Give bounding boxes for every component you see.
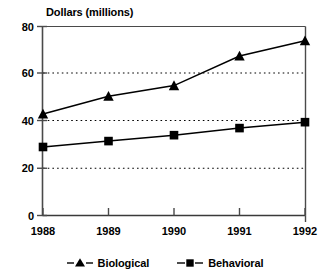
y-tick-label: 60 — [22, 67, 34, 79]
x-tick-label: 1990 — [162, 225, 186, 237]
x-tick-label: 1988 — [31, 225, 55, 237]
legend-label-behavioral: Behavioral — [208, 257, 263, 269]
y-tick-labels: 80 60 40 20 0 — [22, 21, 34, 222]
x-tick-label: 1992 — [293, 225, 317, 237]
data-series-layer — [38, 35, 310, 151]
x-tick-label: 1989 — [96, 225, 120, 237]
triangle-marker-icon — [67, 257, 93, 269]
data-point-marker — [300, 35, 310, 45]
line-chart: Dollars (millions) — [0, 0, 330, 278]
chart-legend: Biological Behavioral — [0, 252, 330, 274]
data-point-marker — [104, 137, 113, 146]
legend-entry-behavioral[interactable]: Behavioral — [177, 257, 263, 269]
x-tick-label: 1991 — [227, 225, 251, 237]
y-tick-label: 80 — [22, 21, 34, 33]
data-point-marker — [170, 131, 179, 140]
data-point-marker — [235, 124, 244, 133]
square-marker-icon — [177, 257, 203, 269]
legend-entry-biological[interactable]: Biological — [67, 257, 150, 269]
plot-area: 80 60 40 20 0 1988 1989 1990 1991 1992 — [0, 0, 330, 252]
y-tick-label: 20 — [22, 162, 34, 174]
data-point-marker — [301, 118, 310, 127]
series-line — [43, 41, 305, 114]
data-point-marker — [39, 143, 48, 152]
legend-label-biological: Biological — [98, 257, 150, 269]
x-tick-labels: 1988 1989 1990 1991 1992 — [31, 225, 317, 237]
data-point-marker — [169, 80, 179, 90]
y-tick-label: 0 — [28, 210, 34, 222]
series-behavioral — [39, 118, 310, 151]
series-biological — [38, 35, 310, 118]
y-tick-label: 40 — [22, 115, 34, 127]
